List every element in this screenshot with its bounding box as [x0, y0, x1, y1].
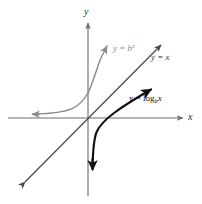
- exponential-curve-label: y = bx: [113, 43, 135, 53]
- logarithm-label-prefix: y = log: [129, 93, 155, 103]
- logarithm-curve-label: y = logbx: [129, 94, 162, 104]
- identity-line-label: y = x: [151, 53, 170, 62]
- coordinate-plot: [0, 0, 202, 204]
- identity-label-variable: x: [166, 52, 170, 62]
- exponential-curve: [34, 46, 107, 114]
- exponential-label-prefix: y =: [113, 43, 128, 53]
- logarithm-label-argument: x: [158, 93, 162, 103]
- math-figure: y x y = bx y = x y = logbx: [0, 0, 202, 204]
- identity-label-prefix: y =: [151, 52, 166, 62]
- x-axis-label: x: [188, 112, 192, 122]
- exponential-label-exponent: x: [132, 42, 135, 49]
- y-axis-label: y: [84, 7, 88, 17]
